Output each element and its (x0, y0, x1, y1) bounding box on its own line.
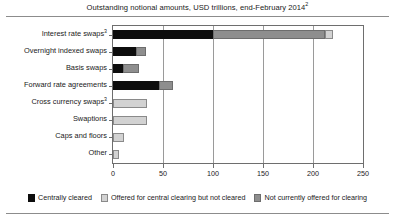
category-footnote-marker: 3 (104, 96, 107, 102)
chart-title-footnote-marker: 2 (305, 1, 308, 7)
bar-row (113, 64, 363, 73)
category-label-other: Other (89, 149, 107, 156)
bar-segment-centrally-cleared (113, 81, 159, 90)
bar-segment-offered-not-cleared (113, 99, 147, 108)
bar-segment-not-offered-for-clearing (136, 47, 146, 56)
bar-segment-offered-not-cleared (113, 133, 124, 142)
x-axis-tick-label: 0 (111, 169, 115, 178)
chart-figure: Outstanding notional amounts, USD trilli… (0, 0, 395, 221)
y-axis-tick (109, 52, 113, 53)
x-axis-tick (263, 164, 264, 168)
y-axis-tick (109, 86, 113, 87)
bar-segment-offered-not-cleared (113, 116, 147, 125)
x-axis-tick (113, 164, 114, 168)
bar-segment-not-offered-for-clearing (159, 81, 173, 90)
legend-divider-rule (6, 213, 389, 214)
y-axis-tick (109, 35, 113, 36)
category-label-overnight-indexed-swaps: Overnight indexed swaps (24, 47, 107, 54)
bar-segment-centrally-cleared (113, 47, 136, 56)
x-axis-tick (163, 164, 164, 168)
plot-area: 050100150200250 (112, 25, 364, 164)
legend-label-centrally-cleared: Centrally cleared (38, 193, 92, 202)
y-axis-tick (109, 103, 113, 104)
x-axis-tick (313, 164, 314, 168)
legend-item-not-offered: Not currently offered for clearing (254, 193, 367, 202)
x-axis-tick-label: 150 (257, 169, 269, 178)
title-divider-rule (6, 16, 389, 17)
y-axis-tick (109, 154, 113, 155)
bar-row (113, 30, 363, 39)
x-axis-tick (213, 164, 214, 168)
category-label-interest-rate-swaps: Interest rate swaps3 (42, 30, 107, 37)
legend-swatch-icon-offered-not-cleared (101, 194, 108, 202)
legend-swatch-icon-not-offered (254, 194, 261, 202)
x-axis-tick-label: 50 (159, 169, 167, 178)
y-axis-tick (109, 137, 113, 138)
chart-title: Outstanding notional amounts, USD trilli… (0, 3, 395, 12)
x-axis-tick-label: 200 (307, 169, 319, 178)
x-axis-tick (363, 164, 364, 168)
chart-title-text: Outstanding notional amounts, USD trilli… (87, 3, 306, 12)
chart-legend: Centrally cleared Offered for central cl… (0, 193, 395, 202)
bar-row (113, 133, 363, 142)
category-footnote-marker: 3 (104, 27, 107, 33)
x-axis-tick-label: 100 (207, 169, 219, 178)
legend-label-offered-not-cleared: Offered for central clearing but not cle… (111, 193, 246, 202)
x-axis-tick-label: 250 (357, 169, 369, 178)
bar-row (113, 99, 363, 108)
bar-row (113, 81, 363, 90)
bar-segment-centrally-cleared (113, 64, 123, 73)
y-axis-tick (109, 120, 113, 121)
category-label-cross-currency-swaps: Cross currency swaps3 (31, 98, 107, 105)
y-axis-tick (109, 69, 113, 70)
legend-item-offered-not-cleared: Offered for central clearing but not cle… (101, 193, 246, 202)
category-label-swaptions: Swaptions (73, 115, 107, 122)
bar-row (113, 116, 363, 125)
bar-segment-offered-not-cleared (325, 30, 333, 39)
legend-item-centrally-cleared: Centrally cleared (28, 193, 92, 202)
bar-row (113, 47, 363, 56)
bar-segment-offered-not-cleared (113, 150, 119, 159)
category-label-forward-rate-agreements: Forward rate agreements (24, 81, 107, 88)
bar-segment-centrally-cleared (113, 30, 213, 39)
bar-segment-not-offered-for-clearing (123, 64, 139, 73)
bar-row (113, 150, 363, 159)
category-label-basis-swaps: Basis swaps (66, 64, 107, 71)
category-label-caps-and-floors: Caps and floors (55, 132, 107, 139)
legend-label-not-offered: Not currently offered for clearing (264, 193, 367, 202)
legend-swatch-icon-centrally-cleared (28, 194, 35, 202)
bar-segment-not-offered-for-clearing (213, 30, 325, 39)
